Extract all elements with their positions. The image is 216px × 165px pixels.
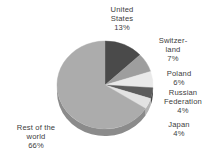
slice-label-poland: Poland 6%: [155, 69, 203, 87]
slice-label-united-states: United States 13%: [90, 5, 154, 33]
slice-label-russian-federation: Russian Federation 4%: [154, 88, 212, 116]
slice-label-japan: Japan 4%: [155, 120, 203, 138]
slice-label-switzerland: Switzer- land 7%: [147, 36, 199, 64]
slice-label-rest-of-the-world: Rest of the world 66%: [3, 123, 69, 151]
pie-chart-figure: United States 13% Switzer- land 7% Polan…: [0, 0, 216, 165]
pie-top-face-group: [57, 41, 153, 129]
